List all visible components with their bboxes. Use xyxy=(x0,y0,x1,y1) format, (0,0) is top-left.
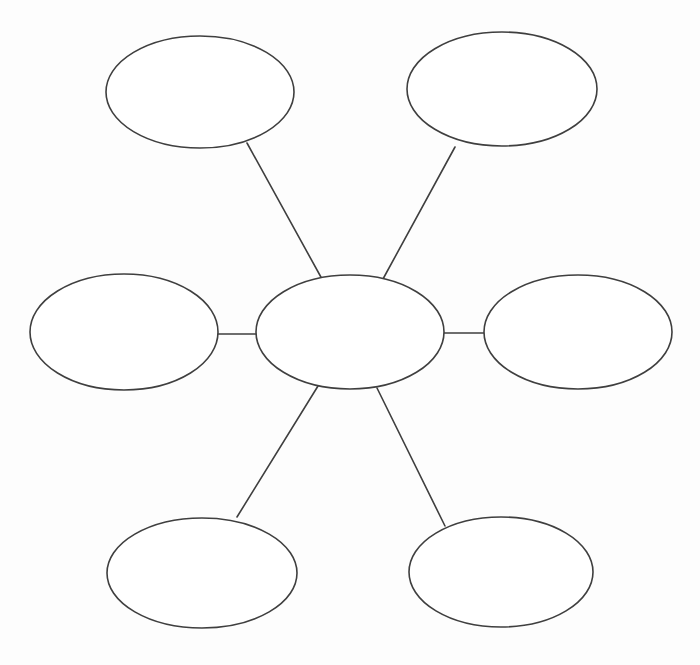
node-top-right[interactable] xyxy=(407,32,597,146)
connector-center-to-bottom-right xyxy=(377,388,445,526)
node-bottom-left[interactable] xyxy=(107,518,297,628)
node-right[interactable] xyxy=(484,275,672,389)
node-center[interactable] xyxy=(256,275,444,389)
connector-center-to-top-left xyxy=(247,143,322,279)
node-bottom-right[interactable] xyxy=(409,517,593,627)
connector-center-to-bottom-left xyxy=(237,386,318,517)
connector-center-to-top-right xyxy=(383,147,455,279)
node-left[interactable] xyxy=(30,274,218,390)
spider-diagram xyxy=(0,0,700,665)
spider-diagram-canvas xyxy=(0,0,700,665)
node-top-left[interactable] xyxy=(106,36,294,148)
